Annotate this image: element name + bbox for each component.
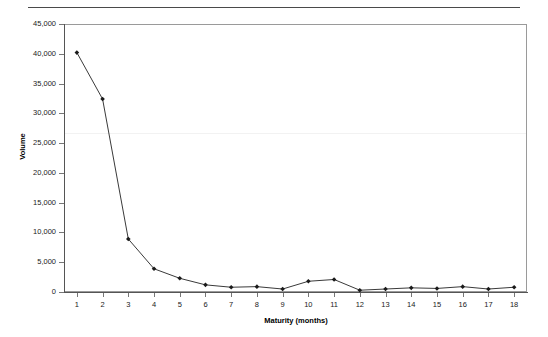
- data-point-marker: [512, 285, 517, 290]
- x-axis-tick: [360, 293, 361, 297]
- data-point-marker: [306, 279, 311, 284]
- x-axis-tick-label: 1: [65, 300, 89, 309]
- x-axis-tick-label: 12: [348, 300, 372, 309]
- y-axis-tick-label: 45,000: [4, 20, 56, 28]
- y-axis-tick-label-wrap: 10,000: [0, 228, 56, 236]
- y-axis-tick-label: 35,000: [4, 80, 56, 88]
- y-axis-tick-label-wrap: 0: [0, 288, 56, 296]
- x-axis-tick: [154, 293, 155, 297]
- y-axis-tick-label: 15,000: [4, 199, 56, 207]
- x-axis-tick: [437, 293, 438, 297]
- data-point-marker: [435, 286, 440, 291]
- x-axis-tick: [488, 293, 489, 297]
- x-axis-tick: [231, 293, 232, 297]
- y-axis-tick-label: 25,000: [4, 139, 56, 147]
- data-point-marker: [332, 277, 337, 282]
- data-point-marker: [409, 286, 414, 291]
- data-point-marker: [229, 285, 234, 290]
- y-axis-tick-label-wrap: 30,000: [0, 109, 56, 117]
- y-axis-tick-label: 30,000: [4, 109, 56, 117]
- x-axis-tick: [205, 293, 206, 297]
- x-axis-tick-label: 13: [374, 300, 398, 309]
- data-series: [64, 24, 527, 292]
- x-axis-tick: [334, 293, 335, 297]
- y-axis-tick-label-wrap: 25,000: [0, 139, 56, 147]
- data-point-marker: [486, 287, 491, 292]
- data-point-marker: [280, 287, 285, 292]
- x-axis-tick: [308, 293, 309, 297]
- x-axis-tick-label: 9: [271, 300, 295, 309]
- y-axis-tick-label: 40,000: [4, 50, 56, 58]
- x-axis-tick: [283, 293, 284, 297]
- data-point-marker: [203, 283, 208, 288]
- x-axis-tick: [128, 293, 129, 297]
- x-axis-tick-label: 15: [425, 300, 449, 309]
- data-point-marker: [460, 284, 465, 289]
- line-chart: 05,00010,00015,00020,00025,00030,00035,0…: [0, 14, 548, 337]
- x-axis-tick-label: 17: [476, 300, 500, 309]
- figure: 05,00010,00015,00020,00025,00030,00035,0…: [0, 0, 548, 337]
- x-axis-tick: [77, 293, 78, 297]
- data-point-marker: [358, 288, 363, 293]
- data-point-marker: [383, 287, 388, 292]
- x-axis-tick-label: 6: [193, 300, 217, 309]
- y-axis-tick-label-wrap: 15,000: [0, 199, 56, 207]
- x-axis-tick: [411, 293, 412, 297]
- x-axis-title: Maturity (months): [64, 316, 528, 325]
- y-axis-tick-label-wrap: 20,000: [0, 169, 56, 177]
- y-axis-tick-label: 20,000: [4, 169, 56, 177]
- data-point-marker: [100, 97, 105, 102]
- x-axis-tick-label: 10: [296, 300, 320, 309]
- x-axis-line: [64, 292, 528, 293]
- x-axis-tick-label: 2: [91, 300, 115, 309]
- cut-off-caption-text: [28, 0, 520, 6]
- x-axis-tick-label: 18: [502, 300, 526, 309]
- y-axis-tick-label-wrap: 40,000: [0, 50, 56, 58]
- x-axis-tick: [514, 293, 515, 297]
- y-axis-tick-label: 5,000: [4, 258, 56, 266]
- x-axis-tick-label: 3: [116, 300, 140, 309]
- x-axis-tick-label: 7: [219, 300, 243, 309]
- series-line: [77, 53, 514, 291]
- x-axis-tick: [257, 293, 258, 297]
- x-axis-tick-label: 8: [245, 300, 269, 309]
- data-point-marker: [75, 50, 80, 55]
- top-divider-rule: [28, 7, 520, 8]
- data-point-marker: [177, 276, 182, 281]
- y-axis-tick-label: 0: [4, 288, 56, 296]
- x-axis-tick: [103, 293, 104, 297]
- x-axis-tick-label: 4: [142, 300, 166, 309]
- x-axis-tick-label: 5: [168, 300, 192, 309]
- y-axis-tick-label-wrap: 5,000: [0, 258, 56, 266]
- y-axis-title: Volume: [18, 117, 27, 177]
- y-axis-tick-label-wrap: 35,000: [0, 80, 56, 88]
- y-axis-tick-label-wrap: 45,000: [0, 20, 56, 28]
- x-axis-tick-label: 11: [322, 300, 346, 309]
- x-axis-tick: [463, 293, 464, 297]
- series-markers: [75, 50, 517, 292]
- y-axis-tick: [59, 292, 64, 293]
- x-axis-tick-label: 16: [451, 300, 475, 309]
- x-axis-tick: [386, 293, 387, 297]
- data-point-marker: [255, 284, 260, 289]
- x-axis-tick: [180, 293, 181, 297]
- x-axis-tick-label: 14: [399, 300, 423, 309]
- y-axis-tick-label: 10,000: [4, 228, 56, 236]
